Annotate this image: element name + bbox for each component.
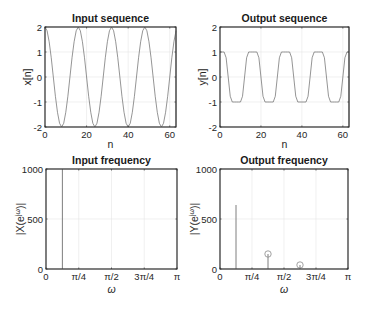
y-tick-label: -2 [34, 122, 42, 133]
x-tick-label: π/2 [104, 271, 118, 282]
x-tick-label: 0 [217, 271, 222, 282]
y-tick-label: 0 [38, 264, 43, 275]
x-axis-label: ω [280, 283, 288, 295]
panel-title: Input frequency [72, 154, 151, 166]
y-tick-label: -2 [209, 122, 217, 133]
y-label-text: |X(e [14, 216, 26, 235]
x-tick-label: 0 [43, 271, 48, 282]
panel-input-frequency: Input frequency 0π/4π/23π/4π05001000 ω |… [14, 154, 181, 295]
y-tick-label: 1000 [196, 164, 217, 175]
y-tick-label: -1 [34, 97, 42, 108]
x-tick-label: π [345, 271, 352, 282]
y-tick-label: -1 [209, 97, 217, 108]
y-axis-label: x[n] [21, 68, 33, 85]
x-tick-label: 40 [297, 129, 308, 140]
x-tick-label: 20 [81, 129, 92, 140]
x-axis-label: ω [107, 283, 115, 295]
x-tick-label: 0 [42, 129, 47, 140]
y-axis-label: y[n] [196, 68, 208, 85]
panel-title: Output sequence [242, 12, 328, 24]
y-axis-label: |X(ejω)| [14, 203, 26, 235]
x-tick-label: 60 [338, 129, 349, 140]
y-tick-label: 1 [37, 47, 42, 58]
x-axis-label: n [282, 138, 288, 150]
x-tick-label: π [174, 271, 181, 282]
y-tick-label: 2 [212, 22, 217, 33]
y-tick-label: 1 [212, 47, 217, 58]
y-axis-label: |Y(ejω)| [188, 203, 200, 235]
panel-output-frequency: Output frequency 0π/4π/23π/4π05001000 ω … [188, 154, 352, 295]
x-tick-label: 40 [123, 129, 134, 140]
x-tick-label: 3π/4 [306, 271, 326, 282]
x-axis-label: n [108, 138, 114, 150]
y-label-text: |Y(e [188, 216, 200, 235]
panel-title: Input sequence [72, 12, 149, 24]
panel-title: Output frequency [240, 154, 328, 166]
x-tick-label: 0 [217, 129, 222, 140]
y-label-close: )| [14, 203, 26, 209]
panel-input-sequence: Input sequence 0204060-2-1012 n x[n] [21, 12, 176, 150]
y-tick-label: 0 [212, 72, 217, 83]
x-tick-label: π/2 [277, 271, 291, 282]
y-tick-label: 1000 [22, 164, 43, 175]
y-label-close: )| [188, 203, 200, 209]
x-tick-label: 60 [164, 129, 175, 140]
x-tick-label: π/4 [72, 271, 86, 282]
y-tick-label: 500 [201, 214, 217, 225]
x-tick-label: 3π/4 [134, 271, 154, 282]
y-tick-label: 0 [37, 72, 42, 83]
panel-output-sequence: Output sequence 0204060-2-1012 n y[n] [196, 12, 349, 150]
x-tick-label: 20 [256, 129, 267, 140]
y-tick-label: 0 [212, 264, 217, 275]
figure: Input sequence 0204060-2-1012 n x[n] Out… [0, 0, 366, 309]
y-tick-label: 2 [37, 22, 42, 33]
y-tick-label: 500 [27, 214, 43, 225]
x-tick-label: π/4 [245, 271, 259, 282]
